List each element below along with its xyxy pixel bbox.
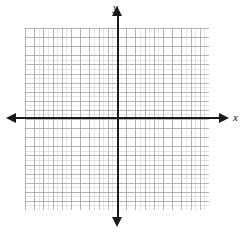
x-axis-left-arrowhead-icon bbox=[6, 113, 16, 123]
x-axis-right-arrowhead-icon bbox=[219, 113, 229, 123]
x-axis-label: x bbox=[233, 112, 238, 123]
coordinate-plane-figure: y x bbox=[0, 0, 245, 232]
y-axis-label: y bbox=[113, 2, 118, 13]
y-axis-line bbox=[117, 14, 119, 221]
y-axis-down-arrowhead-icon bbox=[112, 217, 122, 227]
